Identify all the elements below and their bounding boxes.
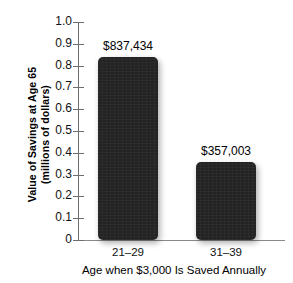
x-category-label-21-29: 21–29 (78, 246, 178, 258)
bar-value-label-31-39: $357,003 (186, 144, 266, 158)
y-tick-mark (73, 109, 84, 110)
y-tick-label: 1.0 (42, 14, 72, 28)
bar-value-label-21-29: $837,434 (88, 39, 168, 53)
x-category-label-31-39: 31–39 (176, 246, 276, 258)
x-axis-line (78, 240, 285, 241)
bar-chart: Value of Savings at Age 65 (millions of … (0, 0, 293, 283)
y-tick-mark (73, 196, 84, 197)
y-tick-mark (73, 87, 84, 88)
y-tick-mark (73, 44, 84, 45)
y-tick-label: 0.7 (42, 79, 72, 93)
y-tick-mark (73, 22, 84, 23)
x-axis-title: Age when $3,000 Is Saved Annually (56, 264, 292, 276)
y-tick-label: 0.6 (42, 101, 72, 115)
y-axis-title-line-1: Value of Savings at Age 65 (26, 35, 39, 235)
bar-texture (196, 162, 256, 240)
y-tick-mark (73, 175, 84, 176)
plot-area: 1.0 0.9 0.8 0.7 0.6 0.5 0.4 0.3 (78, 22, 285, 240)
y-tick-label: 0.2 (42, 188, 72, 202)
y-tick-label: 0.8 (42, 58, 72, 72)
y-tick-label: 0.4 (42, 145, 72, 159)
y-tick-label: 0.1 (42, 210, 72, 224)
bar-21-29 (98, 57, 158, 240)
y-tick-mark (73, 66, 84, 67)
y-tick-mark (73, 131, 84, 132)
y-tick-mark (73, 218, 84, 219)
y-tick-mark (73, 240, 84, 241)
y-tick-label: 0.5 (42, 123, 72, 137)
y-tick-label: 0.3 (42, 167, 72, 181)
y-tick-label: 0.9 (42, 36, 72, 50)
y-tick-mark (73, 153, 84, 154)
bar-31-39 (196, 162, 256, 240)
y-tick-label: 0 (42, 232, 72, 246)
bar-texture (98, 57, 158, 240)
